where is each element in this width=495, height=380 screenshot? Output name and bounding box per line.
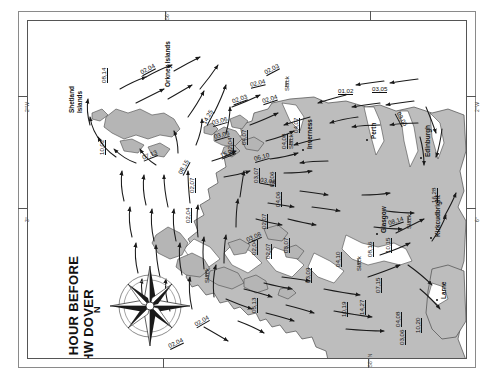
- rate-label-28: 02,07: [260, 214, 268, 229]
- graticule-label-left-1: 2°W: [24, 102, 30, 112]
- place-label-orkney: Orkney Islands: [164, 41, 171, 87]
- rate-label-37: 10,19: [340, 302, 348, 317]
- rate-label-34: 05,13: [250, 298, 258, 313]
- graticule-tick-left-2: [18, 208, 28, 209]
- chart-title-line-1: I HOUR BEFORE: [66, 256, 81, 359]
- graticule-tick-right-2: [466, 208, 476, 209]
- chart-title-line-2: HW DOVER: [81, 289, 96, 359]
- graticule-label-right-2: 6°: [474, 217, 480, 222]
- place-label-edinburgh: Edinburgh: [424, 125, 431, 157]
- chart-inner-frame: Shetland Islands Orkney Islands Invernes…: [27, 20, 467, 359]
- slack-label-6: Slack: [406, 214, 412, 229]
- graticule-tick-left-1: [18, 96, 28, 97]
- place-label-perth: Perth: [370, 123, 377, 139]
- rate-label-26: 04,06: [274, 192, 282, 207]
- slack-label-5: Slack: [356, 256, 362, 271]
- rate-label-30: 02,07: [264, 244, 272, 259]
- place-label-shetland-line2: Islands: [76, 91, 83, 113]
- rate-label-32: 03,09: [304, 268, 312, 283]
- rate-label-1: 08,14: [100, 68, 108, 83]
- place-label-inverness: Inverness: [306, 119, 313, 149]
- slack-label-3: Slack: [204, 268, 210, 283]
- rate-label-29: 02,04: [250, 240, 258, 255]
- slack-label-2: Slack: [288, 134, 294, 149]
- place-label-shetland-line1: Shetland: [68, 86, 75, 113]
- chart-title-block: I HOUR BEFORE HW DOVER: [64, 233, 84, 359]
- rate-label-41: 10,15: [384, 238, 392, 253]
- rate-label-31: 03,07: [282, 238, 290, 253]
- compass-rose: [108, 264, 192, 348]
- rate-label-4: 10,02: [98, 140, 106, 155]
- graticule-label-top-1: 56°: [164, 12, 170, 20]
- graticule-tick-bottom-1: [163, 358, 164, 368]
- rate-label-19: 04,07: [240, 130, 248, 145]
- rate-label-44: 04,08: [394, 312, 402, 327]
- rate-label-47: 02,07: [188, 178, 196, 193]
- rate-label-15: 01,02: [338, 87, 353, 95]
- rate-label-43: 16,28: [430, 188, 438, 203]
- rate-label-16: 03,05: [372, 85, 387, 93]
- rate-label-39: 07,15: [374, 278, 382, 293]
- graticule-tick-right-1: [466, 96, 476, 97]
- rate-label-33: 04,10: [334, 252, 342, 267]
- graticule-label-left-2: 3°: [24, 217, 30, 222]
- rate-label-38: 14,27: [358, 300, 366, 315]
- slack-label-1: Slack: [284, 76, 290, 91]
- rate-label-21: 04,08: [280, 134, 288, 149]
- rate-label-40: 08,16: [366, 242, 374, 257]
- compass-north-label: N: [92, 307, 102, 314]
- rate-label-22: 02,04: [226, 138, 234, 153]
- rate-label-46: 03,06: [398, 330, 406, 345]
- tidal-atlas-page: Shetland Islands Orkney Islands Invernes…: [0, 0, 495, 380]
- place-label-glasgow: Glasgow: [380, 206, 387, 233]
- rate-label-14: 04,07: [292, 118, 300, 133]
- rate-label-45: 10,20: [414, 318, 422, 333]
- place-label-larne: Larne: [440, 282, 447, 299]
- graticule-label-right-1: 2°W: [474, 102, 480, 112]
- graticule-label-bottom-1: 58° N: [367, 353, 373, 367]
- graticule-tick-top-2: [370, 11, 371, 21]
- rate-label-27: 02,04: [184, 208, 192, 223]
